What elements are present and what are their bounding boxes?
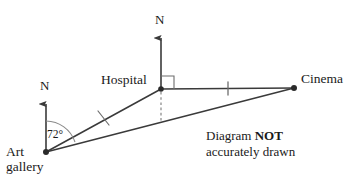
point-label-art-gallery: Art gallery — [6, 144, 43, 174]
note-prefix: Diagram — [206, 128, 255, 143]
diagram-not-accurately-drawn-note: Diagram NOT accurately drawn — [206, 128, 295, 160]
north-label-art-gallery: N — [40, 79, 49, 94]
note-line-1: Diagram NOT — [206, 128, 295, 144]
north-label-hospital: N — [155, 13, 164, 28]
diagram-canvas: N N Art gallery Hospital Cinema 72° Diag… — [0, 0, 359, 188]
point-label-art-gallery-line1: Art — [6, 144, 43, 159]
point-hospital — [158, 86, 164, 92]
segment-art-gallery-to-hospital — [46, 89, 161, 152]
point-cinema — [291, 85, 297, 91]
note-emphasis-not: NOT — [255, 128, 283, 143]
point-art-gallery — [43, 149, 49, 155]
note-line-2: accurately drawn — [206, 144, 295, 160]
angle-label-72-degrees: 72° — [47, 128, 63, 141]
point-label-art-gallery-line2: gallery — [6, 159, 43, 174]
geometry-figure — [0, 0, 359, 188]
point-label-hospital: Hospital — [101, 72, 147, 87]
point-label-cinema: Cinema — [301, 71, 343, 86]
